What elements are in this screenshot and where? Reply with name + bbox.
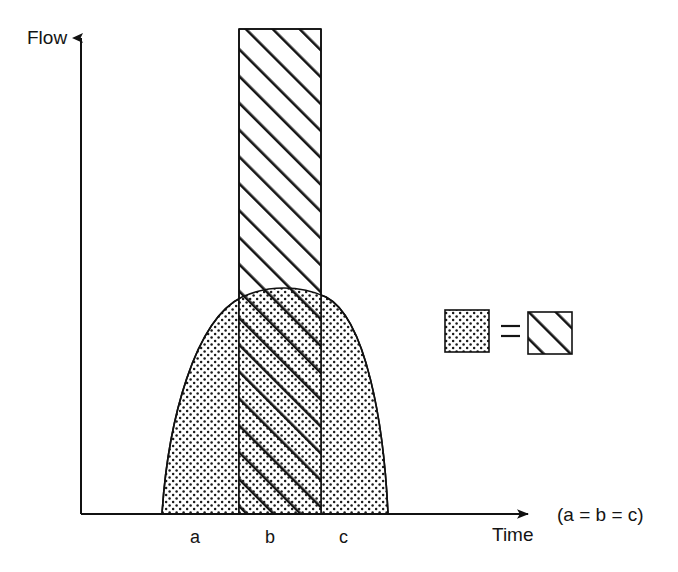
flow-time-diagram: Flow Time a b c (a = b = c) <box>0 0 678 572</box>
tick-label-c: c <box>339 527 348 547</box>
x-axis-label: Time <box>492 524 534 545</box>
y-axis-label: Flow <box>27 27 67 48</box>
tick-label-a: a <box>190 527 201 547</box>
tick-label-b: b <box>265 527 275 547</box>
figure-root: Flow Time a b c (a = b = c) <box>0 0 678 572</box>
equality-annotation: (a = b = c) <box>557 504 644 525</box>
legend-equals-icon <box>501 326 520 336</box>
legend <box>445 310 572 354</box>
legend-hatched-swatch <box>528 312 572 354</box>
legend-dotted-swatch <box>445 310 489 352</box>
